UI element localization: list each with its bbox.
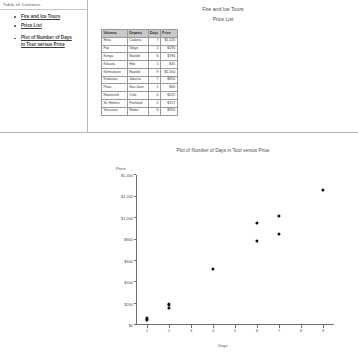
cell-days: 6	[148, 53, 160, 61]
cell-volcano: Poas	[102, 84, 128, 92]
price-table-head: Volcano Departs Days Price	[102, 30, 178, 38]
toc-item-fire-and-ice-tours[interactable]: Fire and Ice Tours	[14, 14, 74, 20]
cell-departs: Catania	[127, 37, 148, 45]
cell-days: 1	[148, 61, 160, 69]
y-axis-tick-label: $600	[124, 258, 133, 263]
cell-departs: Jakarta	[127, 76, 148, 84]
price-table-container: Volcano Departs Days Price EtnaCatania7$…	[101, 29, 178, 116]
cell-days: 2	[148, 45, 160, 53]
cell-days: 7	[148, 37, 160, 45]
x-axis-tick-label: 7	[278, 328, 280, 333]
cell-days: 1	[148, 84, 160, 92]
scatter-point	[255, 222, 258, 225]
cell-volcano: Fuji	[102, 45, 128, 53]
document-page: Table of Contents Fire and Ice Tours Pri…	[0, 0, 358, 353]
scatter-point	[321, 188, 324, 191]
cell-price: $190	[160, 45, 177, 53]
y-axis-tick-label: $400	[124, 280, 133, 285]
scatter-point	[277, 232, 280, 235]
y-axis-tick-label: $1,400	[121, 173, 133, 178]
cell-volcano: Kenya	[102, 53, 128, 61]
price-table: Volcano Departs Days Price EtnaCatania7$…	[101, 29, 178, 116]
table-row: EtnaCatania7$1,020	[102, 37, 178, 45]
table-row: KilimanjaroNairobi9$1,260	[102, 68, 178, 76]
y-axis-tick	[134, 303, 137, 304]
cell-days: 4	[148, 92, 160, 100]
page-title: Fire and Ice Tours	[88, 6, 358, 12]
cell-departs: Hilo	[127, 61, 148, 69]
table-row: KenyaNairobi6$780	[102, 53, 178, 61]
x-axis-tick-label: 6	[256, 328, 258, 333]
cell-price: $780	[160, 53, 177, 61]
table-row: VesuviusRome6$950	[102, 107, 178, 115]
toc-heading: Table of Contents	[3, 2, 41, 7]
chart-y-axis-label: Price	[116, 166, 126, 171]
cell-volcano: Roosevelt	[102, 92, 128, 100]
cell-price: $525	[160, 92, 177, 100]
toc-item-price-list[interactable]: Price List	[14, 23, 74, 29]
y-axis-tick	[134, 239, 137, 240]
scatter-point	[255, 240, 258, 243]
x-axis-tick-label: 9	[322, 328, 324, 333]
toc-divider	[0, 9, 88, 10]
cell-days: 7	[148, 76, 160, 84]
page-subtitle: Price List	[88, 16, 358, 22]
cell-departs: Portland	[127, 100, 148, 108]
y-axis-tick-label: $1,200	[121, 194, 133, 199]
table-header-row: Volcano Departs Days Price	[102, 30, 178, 38]
column-header-departs: Departs	[127, 30, 148, 38]
y-axis-tick	[134, 260, 137, 261]
y-axis-tick-label: $200	[124, 301, 133, 306]
x-axis-tick-label: 1	[146, 328, 148, 333]
cell-price: $1,020	[160, 37, 177, 45]
cell-volcano: St. Helens	[102, 100, 128, 108]
cell-days: 6	[148, 107, 160, 115]
y-axis-tick-label: $1,000	[121, 215, 133, 220]
y-axis-tick	[134, 324, 137, 325]
cell-price: $45	[160, 61, 177, 69]
y-axis-tick-label: $0	[129, 323, 133, 328]
chart-y-axis-line	[136, 175, 137, 325]
cell-volcano: Krakatau	[102, 76, 128, 84]
cell-volcano: Kilauea	[102, 61, 128, 69]
toc-link-label[interactable]: Fire and Ice Tours	[21, 14, 60, 19]
y-axis-tick	[134, 174, 137, 175]
x-axis-tick-label: 4	[212, 328, 214, 333]
toc-item-plot[interactable]: Plot of Number of Days in Tour versus Pr…	[14, 35, 74, 47]
toc-link-label[interactable]: Price List	[21, 23, 42, 28]
scatter-chart-section: Plot of Number of Days in Tour versus Pr…	[88, 133, 358, 353]
column-header-days: Days	[148, 30, 160, 38]
scatter-point	[167, 307, 170, 310]
x-axis-tick-label: 2	[168, 328, 170, 333]
table-of-contents-panel: Table of Contents Fire and Ice Tours Pri…	[0, 0, 88, 133]
y-axis-tick	[134, 196, 137, 197]
table-row: KrakatauJakarta7$850	[102, 76, 178, 84]
y-axis-tick	[134, 217, 137, 218]
scatter-point	[211, 267, 214, 270]
cell-days: 9	[148, 68, 160, 76]
cell-price: $1,260	[160, 68, 177, 76]
cell-days: 2	[148, 100, 160, 108]
chart-x-axis-label: Days	[88, 343, 358, 348]
cell-price: $950	[160, 107, 177, 115]
scatter-point	[277, 214, 280, 217]
x-axis-tick-label: 5	[234, 328, 236, 333]
chart-plot-area: $0$200$400$600$800$1,000$1,200$1,4001234…	[136, 175, 334, 325]
x-axis-tick-label: 8	[300, 328, 302, 333]
cell-volcano: Kilimanjaro	[102, 68, 128, 76]
cell-departs: Nairobi	[127, 53, 148, 61]
table-row: St. HelensPortland2$157	[102, 100, 178, 108]
y-axis-tick-label: $800	[124, 237, 133, 242]
cell-departs: Tokyo	[127, 45, 148, 53]
chart-title: Plot of Number of Days in Tour versus Pr…	[88, 148, 358, 153]
y-axis-tick	[134, 281, 137, 282]
cell-departs: Nairobi	[127, 68, 148, 76]
x-axis-tick-label: 3	[190, 328, 192, 333]
column-header-volcano: Volcano	[102, 30, 128, 38]
cell-price: $60	[160, 84, 177, 92]
cell-departs: Oslo	[127, 92, 148, 100]
cell-departs: San Jose	[127, 84, 148, 92]
table-row: KilaueaHilo1$45	[102, 61, 178, 69]
column-header-price: Price	[160, 30, 177, 38]
toc-link-label[interactable]: Plot of Number of Days in Tour versus Pr…	[21, 35, 72, 46]
